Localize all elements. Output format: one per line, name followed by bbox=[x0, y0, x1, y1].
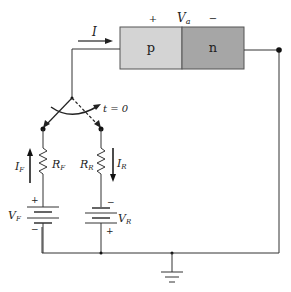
junction-dot-right bbox=[276, 47, 282, 53]
reverse-branch: IR RR VR − + bbox=[79, 129, 132, 255]
resistor-rf bbox=[39, 148, 47, 174]
va-label: Va bbox=[177, 11, 191, 26]
circuit-diagram: p n + − Va I t = 0 IF bbox=[0, 0, 291, 292]
va-minus: − bbox=[209, 13, 217, 24]
rr-label: RR bbox=[79, 158, 94, 172]
n-label: n bbox=[209, 40, 218, 55]
vf-plus: + bbox=[31, 195, 39, 205]
vr-label: VR bbox=[118, 212, 132, 226]
p-label: p bbox=[147, 40, 155, 55]
current-arrow-i: I bbox=[78, 25, 113, 44]
ground-symbol bbox=[161, 252, 183, 283]
switch-label: t = 0 bbox=[103, 103, 129, 114]
switch: t = 0 bbox=[41, 97, 129, 132]
if-label: IF bbox=[14, 160, 25, 174]
rf-label: RF bbox=[51, 158, 66, 172]
current-label: I bbox=[91, 25, 97, 39]
wire-right-bottom bbox=[42, 50, 279, 253]
forward-branch: IF RF VF + − bbox=[8, 129, 66, 253]
vf-label: VF bbox=[8, 209, 22, 223]
pn-diode: p n + − Va bbox=[120, 11, 244, 69]
vr-plus: + bbox=[106, 226, 114, 236]
wire-left-top bbox=[72, 49, 120, 98]
ir-label: IR bbox=[116, 157, 127, 171]
va-plus: + bbox=[149, 13, 157, 24]
vr-minus: − bbox=[107, 197, 115, 207]
vf-minus: − bbox=[31, 224, 39, 234]
resistor-rr bbox=[97, 148, 105, 174]
